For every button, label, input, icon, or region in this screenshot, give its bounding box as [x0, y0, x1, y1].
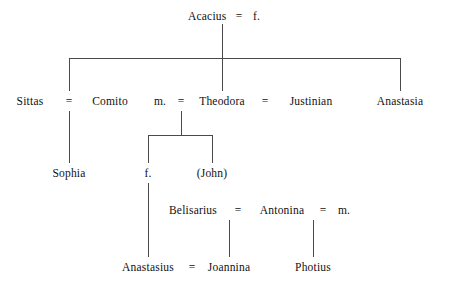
- connector-sibling-bar-gen3: [148, 135, 213, 136]
- marriage-symbol-anastasius-joannina: =: [189, 261, 196, 274]
- person-m1: m.: [154, 95, 166, 108]
- person-acacius: Acacius: [188, 10, 226, 23]
- connector-f2-to-anastasius: [148, 183, 149, 257]
- person-photius: Photius: [295, 261, 331, 274]
- person-comito: Comito: [92, 95, 128, 108]
- connector-drop-theodora: [222, 58, 223, 91]
- person-antonina: Antonina: [260, 204, 304, 217]
- person-sittas: Sittas: [17, 95, 44, 108]
- person-m2: m.: [338, 204, 350, 217]
- person-john: (John): [197, 167, 228, 180]
- person-acacius-wife: f.: [253, 10, 260, 23]
- connector-antonina-to-photius: [313, 220, 314, 257]
- person-anastasia: Anastasia: [377, 95, 424, 108]
- connector-drop-john: [212, 135, 213, 163]
- connector-comito-to-sophia: [69, 111, 70, 163]
- marriage-symbol-belisarius-antonina: =: [235, 204, 242, 217]
- marriage-symbol-theodora-justinian: =: [262, 95, 269, 108]
- marriage-symbol-m-theodora: =: [178, 95, 185, 108]
- connector-belisarius-to-joannina: [229, 220, 230, 257]
- connector-drop-f2: [148, 135, 149, 163]
- connector-sibling-bar-gen2: [69, 58, 401, 59]
- person-anastasius: Anastasius: [122, 261, 174, 274]
- connector-drop-anastasia: [400, 58, 401, 91]
- marriage-symbol-acacius: =: [236, 10, 243, 23]
- person-f2: f.: [144, 167, 151, 180]
- marriage-symbol-antonina-m: =: [320, 204, 327, 217]
- connector-drop-comito: [69, 58, 70, 91]
- marriage-symbol-sittas-comito: =: [66, 95, 73, 108]
- person-theodora: Theodora: [199, 95, 245, 108]
- person-belisarius: Belisarius: [169, 204, 217, 217]
- connector-acacius-stem: [222, 24, 223, 59]
- person-justinian: Justinian: [290, 95, 333, 108]
- person-joannina: Joannina: [208, 261, 250, 274]
- person-sophia: Sophia: [52, 167, 85, 180]
- genealogy-diagram: Acacius = f. Sittas = Comito m. = Theodo…: [0, 0, 452, 291]
- connector-theodora-union-stem: [181, 111, 182, 136]
